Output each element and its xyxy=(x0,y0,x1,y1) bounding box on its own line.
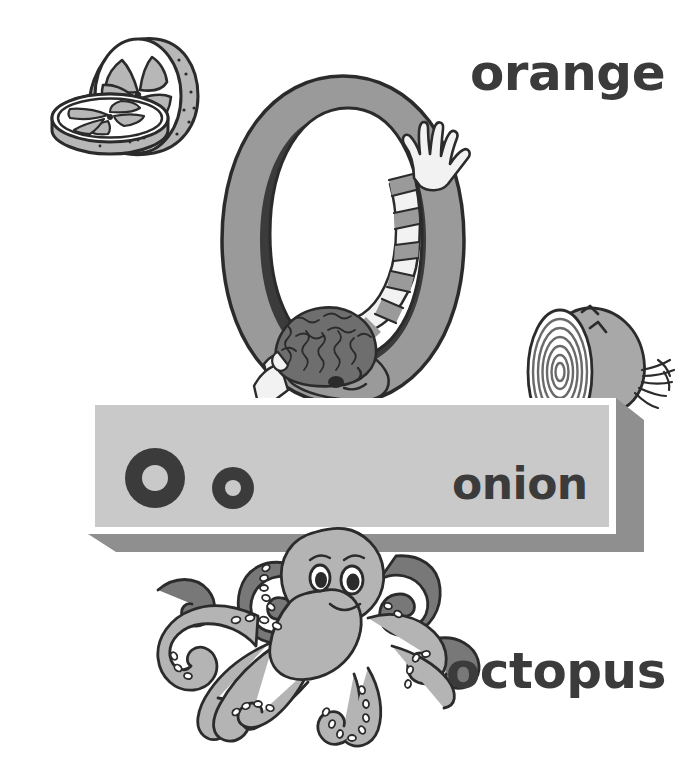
child-nose xyxy=(328,376,344,388)
alphabet-poster-page: orange onion octopus xyxy=(0,0,692,766)
big-letter-o-illustration xyxy=(208,68,478,413)
label-onion: onion xyxy=(452,462,588,506)
lowercase-o-counter xyxy=(225,480,241,496)
orange-illustration xyxy=(38,22,218,182)
uppercase-o-counter xyxy=(142,465,168,491)
octopus-illustration xyxy=(140,498,490,748)
label-orange: orange xyxy=(470,48,665,98)
label-octopus: octopus xyxy=(446,646,666,696)
